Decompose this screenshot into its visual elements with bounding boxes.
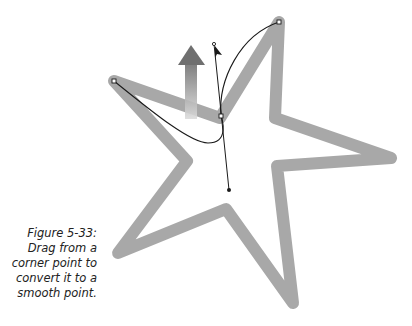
caption-label: Figure 5-33: bbox=[0, 226, 97, 241]
anchor-point-top[interactable] bbox=[277, 20, 281, 24]
star-shape bbox=[114, 22, 391, 303]
cursor-arrow-icon bbox=[215, 46, 222, 58]
caption-line-2: corner point to bbox=[0, 256, 97, 271]
caption-line-1: Drag from a bbox=[0, 241, 97, 256]
anchor-point-center[interactable] bbox=[219, 114, 223, 118]
caption-line-3: convert it to a bbox=[0, 271, 97, 286]
caption-line-4: smooth point. bbox=[0, 286, 97, 301]
figure-caption: Figure 5-33: Drag from a corner point to… bbox=[0, 226, 97, 301]
handle-endpoint-top[interactable] bbox=[212, 42, 215, 45]
anchor-point-left[interactable] bbox=[112, 79, 116, 83]
handle-endpoint-bottom[interactable] bbox=[227, 188, 231, 192]
